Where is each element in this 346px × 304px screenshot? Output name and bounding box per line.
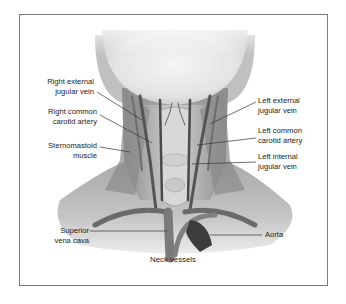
label-superior-vena-cava: Superior vena cava xyxy=(54,226,89,246)
label-left-common-carotid-artery: Left common carotid artery xyxy=(258,126,302,146)
label-right-common-carotid-artery: Right common carotid artery xyxy=(48,107,97,127)
label-left-internal-jugular-vein: Left internal jugular vein xyxy=(258,152,298,172)
figure-caption: Neck vessels xyxy=(0,255,346,264)
head xyxy=(80,20,270,105)
label-right-external-jugular-vein: Right external jugular vein xyxy=(47,77,94,97)
label-sternomastoid-muscle: Sternomastoid muscle xyxy=(48,141,97,161)
label-aorta: Aorta xyxy=(265,230,283,240)
trachea xyxy=(160,107,190,206)
label-left-external-jugular-vein: Left external jugular vein xyxy=(258,96,300,116)
